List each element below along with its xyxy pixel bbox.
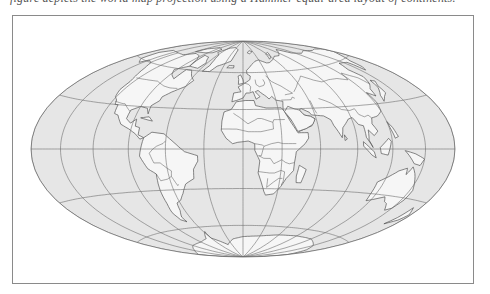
- world-map: [0, 0, 490, 294]
